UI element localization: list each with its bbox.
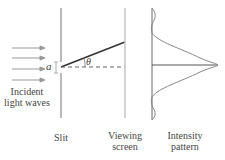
slit-label: Slit [47,132,75,143]
slit-width-bracket [54,62,58,73]
viewing-screen-label: Viewing screen [105,130,145,152]
angle-label: θ [86,56,91,67]
diffracted-ray [61,42,125,67]
angle-arc [84,58,85,67]
slit-width-label: a [46,61,52,72]
incident-light-label: Incident light waves [2,86,52,108]
intensity-pattern-label: Intensity pattern [163,130,207,152]
incident-arrows [12,46,45,82]
intensity-curve [151,8,218,120]
